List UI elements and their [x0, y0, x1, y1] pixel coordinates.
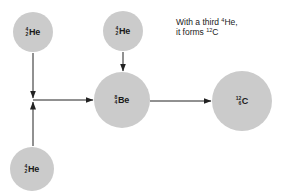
nucleus-he-top-left: 42 He	[13, 12, 53, 52]
isotope-label: 42 He	[116, 26, 131, 36]
nucleus-he-top-center: 42 He	[103, 11, 143, 51]
caption-text: With a third 4He, it forms 12C	[176, 17, 238, 37]
nucleus-be: 84 Be	[94, 72, 150, 128]
nucleus-he-bottom-left: 42 He	[10, 147, 54, 191]
element-symbol: He	[29, 27, 41, 37]
element-symbol: C	[242, 96, 249, 106]
nucleus-c: 126 C	[212, 71, 272, 131]
isotope-label: 84 Be	[115, 95, 130, 105]
caption-line-1: With a third 4He,	[176, 17, 238, 27]
element-symbol: Be	[118, 95, 130, 105]
isotope-label: 42 He	[25, 164, 40, 174]
caption-line-2: it forms 12C	[176, 27, 238, 37]
isotope-label: 42 He	[26, 27, 41, 37]
element-symbol: He	[119, 26, 131, 36]
isotope-label: 126 C	[236, 96, 249, 106]
element-symbol: He	[28, 164, 40, 174]
